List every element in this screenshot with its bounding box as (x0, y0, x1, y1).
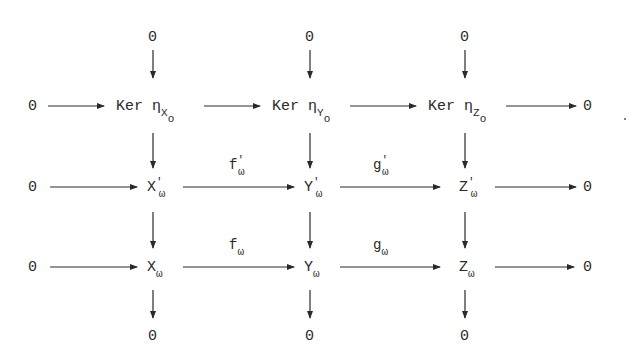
z-omega-prime: Z'ω (459, 180, 477, 195)
subscript: ω (237, 246, 244, 258)
prime-mark: ' (468, 176, 475, 188)
node-letter: X (147, 259, 156, 276)
subscript: ω (159, 188, 166, 200)
subscript: ω (238, 166, 245, 178)
subscript: Y (317, 107, 324, 119)
zero-top-x: 0 (148, 30, 157, 45)
prime-mark: ' (381, 154, 388, 166)
prime-mark: ' (313, 176, 320, 188)
commutative-diagram: 0 0 0 0 Ker ηXo Ker ηYo Ker ηZo 0 0 X'ω … (0, 0, 636, 364)
node-letter: Y (304, 179, 313, 196)
node-letter: Z (459, 179, 468, 196)
zero-primed-left: 0 (28, 180, 37, 195)
trailing-period (624, 118, 626, 120)
sub-subscript: o (168, 113, 175, 125)
subscript: ω (382, 166, 389, 178)
ker-eta-x: Ker ηXo (116, 99, 174, 114)
node-letter: Z (459, 259, 468, 276)
y-omega: Yω (304, 260, 320, 275)
subscript: ω (156, 268, 163, 280)
sub-subscript: o (324, 113, 331, 125)
prime-mark: ' (237, 154, 244, 166)
subscript: ω (316, 188, 323, 200)
subscript: ω (468, 268, 475, 280)
x-omega-prime: X'ω (147, 180, 165, 195)
ker-eta-label: Ker η (116, 98, 161, 115)
subscript: ω (381, 246, 388, 258)
zero-bottom-x: 0 (148, 329, 157, 344)
ker-eta-z: Ker ηZo (428, 99, 486, 114)
z-omega: Zω (459, 260, 475, 275)
zero-omega-left: 0 (28, 260, 37, 275)
zero-primed-right: 0 (583, 180, 592, 195)
prime-mark: ' (156, 176, 163, 188)
subscript: Z (473, 107, 480, 119)
zero-omega-right: 0 (583, 260, 592, 275)
zero-bottom-y: 0 (305, 329, 314, 344)
map-f-omega-prime: f'ω (229, 158, 245, 172)
zero-ker-left: 0 (28, 99, 37, 114)
node-letter: Y (304, 259, 313, 276)
map-f-omega: fω (229, 238, 244, 252)
sub-subscript: o (480, 113, 487, 125)
map-g-omega-prime: g'ω (373, 158, 389, 172)
subscript: X (161, 107, 168, 119)
ker-eta-label: Ker η (428, 98, 473, 115)
x-omega: Xω (147, 260, 163, 275)
zero-top-y: 0 (305, 30, 314, 45)
node-letter: X (147, 179, 156, 196)
map-g-omega: gω (373, 238, 388, 252)
ker-eta-label: Ker η (272, 98, 317, 115)
zero-bottom-z: 0 (460, 329, 469, 344)
subscript: ω (313, 268, 320, 280)
zero-top-z: 0 (460, 30, 469, 45)
subscript: ω (471, 188, 478, 200)
y-omega-prime: Y'ω (304, 180, 322, 195)
zero-ker-right: 0 (583, 99, 592, 114)
ker-eta-y: Ker ηYo (272, 99, 330, 114)
